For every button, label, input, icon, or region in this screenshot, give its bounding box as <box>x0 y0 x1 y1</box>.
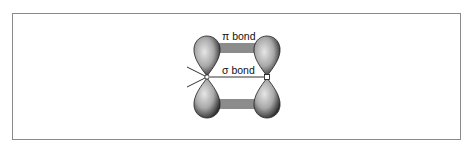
sigma-bond-label: σ bond <box>222 65 255 76</box>
left-nucleus <box>205 75 209 79</box>
left-bottom-lobe <box>194 78 220 118</box>
right-bottom-lobe <box>254 78 280 118</box>
left-top-lobe <box>194 36 220 76</box>
pi-bond-label: π bond <box>222 31 256 42</box>
pi-overlap-top <box>219 43 256 53</box>
pi-overlap-bottom <box>219 99 256 109</box>
right-top-lobe <box>254 36 280 76</box>
right-nucleus <box>265 75 270 80</box>
